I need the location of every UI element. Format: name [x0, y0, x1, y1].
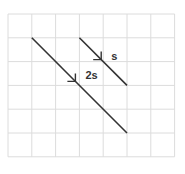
short-line-label: s — [111, 50, 117, 62]
long-line-label: 2s — [85, 69, 97, 81]
grid — [8, 14, 175, 157]
grid-diagram: s2s — [0, 0, 185, 174]
